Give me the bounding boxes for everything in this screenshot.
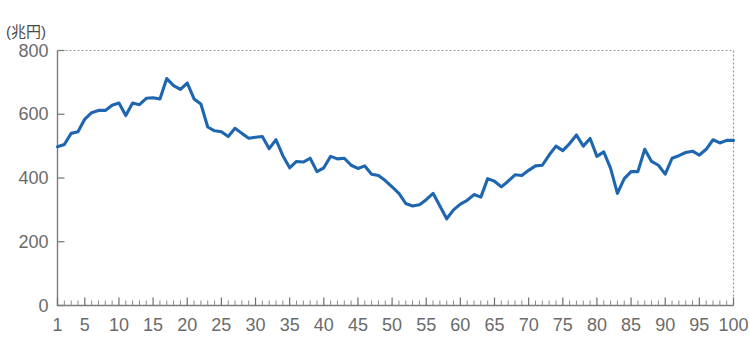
x-tick-label: 60: [450, 315, 470, 335]
x-tick-label: 15: [143, 315, 163, 335]
x-tick-label: 40: [314, 315, 334, 335]
y-axis-labels: 0200400600800: [18, 41, 48, 316]
x-tick-label: 95: [689, 315, 709, 335]
x-tick-label: 75: [553, 315, 573, 335]
x-tick-label: 30: [246, 315, 266, 335]
x-tick-label: 55: [416, 315, 436, 335]
x-tick-label: 45: [348, 315, 368, 335]
x-tick-label: 35: [280, 315, 300, 335]
y-axis-ticks: [58, 51, 65, 306]
x-tick-label: 70: [519, 315, 539, 335]
x-tick-label: 80: [587, 315, 607, 335]
y-tick-label: 200: [18, 232, 48, 252]
y-tick-label: 600: [18, 104, 48, 124]
plot-frame: [58, 51, 734, 306]
plot-axes: [58, 51, 734, 306]
y-tick-label: 0: [38, 296, 48, 316]
x-tick-label: 100: [718, 315, 748, 335]
x-axis-ticks: [58, 298, 734, 306]
x-tick-label: 5: [80, 315, 90, 335]
plot-frame-dotted-border: [58, 51, 734, 306]
x-tick-label: 90: [655, 315, 675, 335]
x-tick-label: 65: [484, 315, 504, 335]
y-tick-label: 800: [18, 41, 48, 61]
x-tick-label: 1: [52, 315, 62, 335]
y-tick-label: 400: [18, 168, 48, 188]
x-tick-label: 50: [382, 315, 402, 335]
x-tick-label: 10: [109, 315, 129, 335]
data-series-group: [58, 79, 734, 219]
x-tick-label: 20: [177, 315, 197, 335]
x-tick-label: 25: [211, 315, 231, 335]
line-chart: 0200400600800 15101520253035404550556065…: [0, 0, 750, 337]
chart-container: (兆円) 0200400600800 151015202530354045505…: [0, 0, 750, 337]
x-axis-labels: 1510152025303540455055606570758085909510…: [52, 315, 748, 335]
x-tick-label: 85: [621, 315, 641, 335]
series-line-series-1: [58, 79, 734, 219]
